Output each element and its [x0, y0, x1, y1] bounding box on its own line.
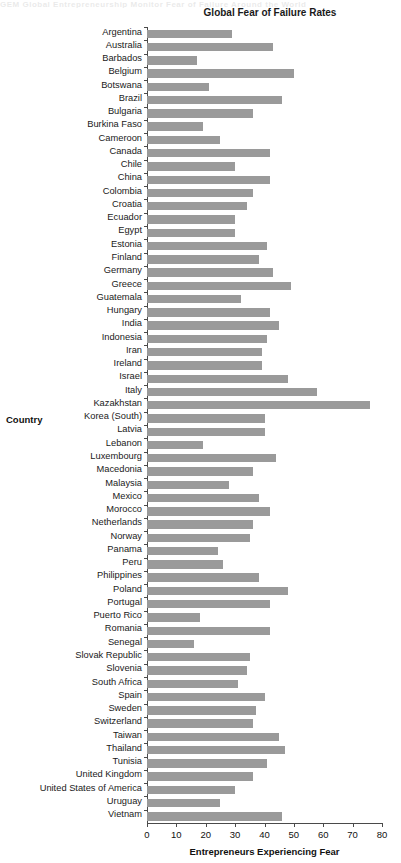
x-axis-tick [176, 823, 177, 827]
bar-row: Canada [147, 146, 382, 159]
bar [147, 176, 270, 184]
y-axis-tick [144, 611, 147, 612]
y-axis-tick-label: Puerto Rico [93, 609, 142, 622]
y-axis-tick-label: Indonesia [102, 331, 142, 344]
bar [147, 733, 279, 741]
x-axis-tick-label: 30 [223, 829, 247, 840]
x-axis-tick-label: 50 [282, 829, 306, 840]
y-axis-tick [144, 624, 147, 625]
bar [147, 786, 235, 794]
y-axis-tick [144, 571, 147, 572]
y-axis-tick [144, 213, 147, 214]
y-axis-tick [144, 80, 147, 81]
y-axis-tick-label: Belgium [108, 65, 142, 78]
bar [147, 202, 247, 210]
bar-row: Botswana [147, 80, 382, 93]
y-axis-tick-label: Kazakhstan [93, 397, 142, 410]
bar-row: Barbados [147, 54, 382, 67]
chart-page: GEM Global Entrepreneurship Monitor Fear… [0, 0, 401, 863]
x-axis-tick-label: 0 [135, 829, 159, 840]
bar [147, 43, 273, 51]
y-axis-tick [144, 690, 147, 691]
y-axis-tick-label: Finland [112, 251, 143, 264]
y-axis-tick [144, 319, 147, 320]
y-axis-tick-label: Chile [121, 158, 142, 171]
bar [147, 242, 267, 250]
bar-row: Israel [147, 372, 382, 385]
y-axis-tick [144, 664, 147, 665]
y-axis-tick-label: Botswana [101, 79, 142, 92]
y-axis-tick [144, 266, 147, 267]
bar [147, 812, 282, 820]
bar [147, 454, 276, 462]
bar-row: Portugal [147, 597, 382, 610]
bar-row: Spain [147, 690, 382, 703]
bar-row: Tunisia [147, 757, 382, 770]
bar [147, 162, 235, 170]
y-axis-tick-label: Netherlands [92, 516, 142, 529]
bar [147, 600, 270, 608]
bar-row: Estonia [147, 239, 382, 252]
bar-row: Iran [147, 345, 382, 358]
bar [147, 560, 223, 568]
y-axis-tick [144, 597, 147, 598]
bar-row: Romania [147, 624, 382, 637]
y-axis-tick-label: Germany [104, 264, 142, 277]
y-axis-tick-label: United States of America [40, 782, 142, 795]
bar [147, 520, 253, 528]
y-axis-label: Country [6, 414, 42, 425]
y-axis-tick [144, 650, 147, 651]
y-axis-tick [144, 345, 147, 346]
y-axis-tick-label: Panama [107, 543, 142, 556]
y-axis-tick-label: Barbados [102, 52, 142, 65]
bar-row: Cameroon [147, 133, 382, 146]
y-axis-tick [144, 677, 147, 678]
bar [147, 335, 267, 343]
y-axis-tick-label: Argentina [102, 26, 142, 39]
y-axis-tick [144, 452, 147, 453]
chart-title: Global Fear of Failure Rates [150, 7, 390, 18]
bar-row: Ecuador [147, 213, 382, 226]
bar-row: India [147, 319, 382, 332]
y-axis-tick [144, 398, 147, 399]
y-axis-tick-label: Romania [105, 622, 142, 635]
y-axis-tick-label: Australia [106, 39, 142, 52]
bar-row: Latvia [147, 425, 382, 438]
y-axis-tick [144, 93, 147, 94]
bar [147, 772, 253, 780]
y-axis-tick [144, 558, 147, 559]
bar-row: Chile [147, 160, 382, 173]
bar-row: United States of America [147, 783, 382, 796]
y-axis-tick-label: Luxembourg [90, 450, 142, 463]
y-axis-tick-label: Hungary [107, 304, 142, 317]
bar-row: Greece [147, 279, 382, 292]
bar [147, 547, 218, 555]
x-axis-tick [382, 823, 383, 827]
y-axis-tick-label: Burkina Faso [87, 118, 142, 131]
bar-row: Panama [147, 544, 382, 557]
x-axis-tick-label: 20 [194, 829, 218, 840]
y-axis-tick-label: Portugal [107, 596, 142, 609]
bar-row: Uruguay [147, 796, 382, 809]
bar [147, 295, 241, 303]
bar [147, 666, 247, 674]
bar [147, 215, 235, 223]
bar [147, 719, 253, 727]
y-axis-tick-label: Uruguay [107, 795, 142, 808]
bar [147, 613, 200, 621]
y-axis-tick-label: Macedonia [97, 463, 142, 476]
y-axis-tick-label: Egypt [118, 224, 142, 237]
bar [147, 746, 285, 754]
bar [147, 467, 253, 475]
x-axis-tick [235, 823, 236, 827]
bar-row: Malaysia [147, 478, 382, 491]
bar [147, 534, 250, 542]
x-axis-tick-label: 70 [341, 829, 365, 840]
bar [147, 268, 273, 276]
bar-row: Puerto Rico [147, 611, 382, 624]
bar [147, 122, 203, 130]
y-axis-tick-label: Brazil [119, 92, 142, 105]
bar [147, 96, 282, 104]
y-axis-tick-label: Slovenia [106, 662, 142, 675]
bar [147, 388, 317, 396]
